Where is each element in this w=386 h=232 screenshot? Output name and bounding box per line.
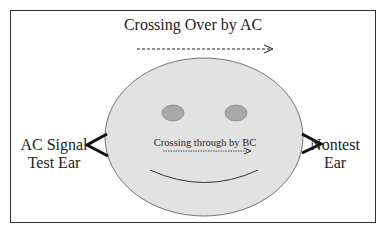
crossing-over-label: Crossing Over by AC xyxy=(0,16,386,34)
test-ear-label: AC Signal Test Ear xyxy=(8,136,100,172)
nontest-ear-line1: Nontest xyxy=(290,136,380,154)
nontest-ear-label: Nontest Ear xyxy=(290,136,380,172)
test-ear-line2: Test Ear xyxy=(8,154,100,172)
head-diagram xyxy=(0,0,386,232)
test-ear-line1: AC Signal xyxy=(8,136,100,154)
nontest-ear-line2: Ear xyxy=(290,154,380,172)
left-eye xyxy=(162,105,184,121)
right-eye xyxy=(225,105,247,121)
crossing-through-label: Crossing through by BC xyxy=(150,137,260,149)
